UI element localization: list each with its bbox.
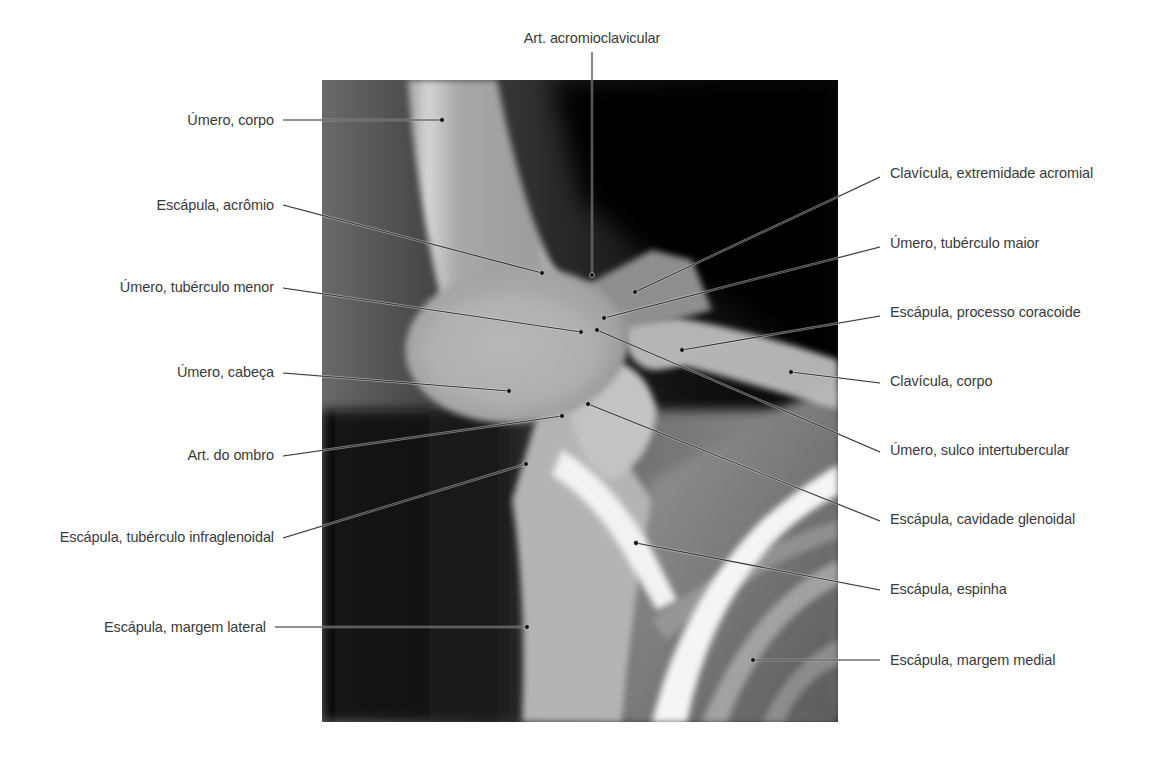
label-umero-corpo: Úmero, corpo <box>187 111 274 129</box>
label-umero-tuberculo-menor: Úmero, tubérculo menor <box>120 278 274 296</box>
label-umero-tuberculo-maior: Úmero, tubérculo maior <box>890 234 1039 252</box>
label-escapula-acromio: Escápula, acrômio <box>156 196 274 214</box>
anatomy-figure: Art. acromioclavicularÚmero, corpoEscápu… <box>0 0 1154 762</box>
label-clavicula-extremidade-acromial: Clavícula, extremidade acromial <box>890 164 1093 182</box>
label-escapula-processo-coracoide: Escápula, processo coracoide <box>890 303 1081 321</box>
label-escapula-espinha: Escápula, espinha <box>890 580 1007 598</box>
label-escapula-tuberculo-infraglenoidal: Escápula, tubérculo infraglenoidal <box>60 528 274 546</box>
label-art-do-ombro: Art. do ombro <box>187 446 274 464</box>
label-clavicula-corpo: Clavícula, corpo <box>890 372 992 390</box>
label-escapula-cavidade-glenoidal: Escápula, cavidade glenoidal <box>890 510 1075 528</box>
label-umero-sulco-intertubercular: Úmero, sulco intertubercular <box>890 441 1069 459</box>
label-escapula-margem-lateral: Escápula, margem lateral <box>104 618 266 636</box>
label-art-acromioclavicular: Art. acromioclavicular <box>492 29 692 47</box>
shoulder-xray-image <box>322 80 838 722</box>
label-escapula-margem-medial: Escápula, margem medial <box>890 651 1055 669</box>
label-umero-cabeca: Úmero, cabeça <box>177 363 274 381</box>
